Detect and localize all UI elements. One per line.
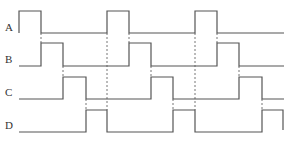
waveform-d [19,110,283,132]
signal-label-a: A [5,21,13,33]
signal-label-b: B [5,53,12,65]
waveform-a [19,11,284,33]
waveform-c [19,77,284,99]
signal-labels: ABCD [5,21,13,131]
waveform-b [19,43,284,66]
timing-diagram: ABCD [0,0,292,143]
signal-label-c: C [5,86,12,98]
signal-label-d: D [5,119,13,131]
